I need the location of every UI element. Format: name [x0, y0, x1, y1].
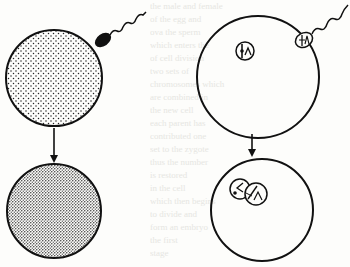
egg-bottom-left	[7, 164, 101, 258]
sperm-top-left	[92, 12, 146, 50]
arrow-right-head	[248, 149, 256, 157]
sperm-top-right	[293, 5, 348, 51]
egg-top-left	[6, 30, 102, 126]
egg-bottom-right	[211, 159, 313, 261]
fertilization-diagram	[0, 0, 350, 267]
egg-nucleus	[236, 42, 254, 60]
arrow-left-head	[50, 155, 58, 163]
fused-pronuclei	[230, 179, 267, 205]
